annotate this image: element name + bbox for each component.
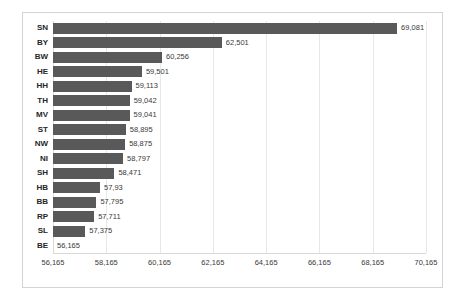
x-axis-tick-label: 64,165 [255,258,278,267]
bar-value-label: 56,165 [53,239,80,254]
x-axis-tick-label: 66,165 [308,258,331,267]
category-label: SN [37,21,48,36]
bar-row[interactable]: BB57,795 [53,195,426,210]
bar-value-label: 57,375 [85,224,112,239]
x-axis-tick-label: 68,165 [361,258,384,267]
category-label: HE [37,65,48,80]
bar[interactable] [53,226,85,237]
bar-value-label: 59,042 [130,94,157,109]
value-axis-line [53,253,426,254]
value-axis-tick-labels: 56,16558,16560,16562,16564,16566,16568,1… [53,258,426,274]
bar-row[interactable]: HE59,501 [53,65,426,80]
category-label: HB [36,181,48,196]
bar-row[interactable]: NI58,797 [53,152,426,167]
category-label: ST [38,123,48,138]
bar-value-label: 69,081 [397,21,424,36]
bar[interactable] [53,95,130,106]
bar-value-label: 57,93 [100,181,123,196]
bar-value-label: 57,711 [94,210,120,225]
bar-row[interactable]: SH58,471 [53,166,426,181]
bar-row[interactable]: TH59,042 [53,94,426,109]
bar[interactable] [53,182,100,193]
bar[interactable] [53,37,222,48]
bar-value-label: 58,875 [125,137,152,152]
bar[interactable] [53,211,94,222]
bar-value-label: 58,471 [114,166,141,181]
bar-value-label: 59,041 [130,108,157,123]
bar-value-label: 59,501 [142,65,169,80]
category-label: SL [38,224,48,239]
bar-row[interactable]: HB57,93 [53,181,426,196]
category-label: RP [37,210,48,225]
bar-value-label: 59,113 [132,79,158,94]
bar-value-label: 58,895 [126,123,153,138]
category-label: BY [37,36,48,51]
bar-row[interactable]: BE56,165 [53,239,426,254]
bar[interactable] [53,66,142,77]
category-label: BE [37,239,48,254]
category-label: SH [37,166,48,181]
bar[interactable] [53,52,162,63]
bar[interactable] [53,197,96,208]
gridline [426,21,427,253]
category-label: NI [40,152,48,167]
bar-value-label: 60,256 [162,50,189,65]
bar[interactable] [53,153,123,164]
bar-row[interactable]: HH59,113 [53,79,426,94]
category-label: BB [36,195,48,210]
bar-row[interactable]: SN69,081 [53,21,426,36]
bar[interactable] [53,81,132,92]
category-label: HH [36,79,48,94]
bar[interactable] [53,110,130,121]
plot-area: SN69,081BY62,501BW60,256HE59,501HH59,113… [53,21,426,253]
bar[interactable] [53,139,125,150]
bar-row[interactable]: RP57,711 [53,210,426,225]
bar-row[interactable]: MV59,041 [53,108,426,123]
bar[interactable] [53,23,397,34]
x-axis-tick-label: 70,165 [415,258,438,267]
category-label: BW [35,50,48,65]
x-axis-tick-label: 56,165 [42,258,65,267]
bar-row[interactable]: NW58,875 [53,137,426,152]
bar[interactable] [53,124,126,135]
bar-value-label: 62,501 [222,36,249,51]
bar-row[interactable]: ST58,895 [53,123,426,138]
bar-chart: SN69,081BY62,501BW60,256HE59,501HH59,113… [22,12,443,288]
x-axis-tick-label: 58,165 [95,258,118,267]
bar-row[interactable]: SL57,375 [53,224,426,239]
bar-value-label: 58,797 [123,152,150,167]
category-label: MV [36,108,48,123]
category-label: TH [37,94,48,109]
bar-row[interactable]: BW60,256 [53,50,426,65]
x-axis-tick-label: 62,165 [201,258,224,267]
x-axis-tick-label: 60,165 [148,258,171,267]
bar-row[interactable]: BY62,501 [53,36,426,51]
bar-value-label: 57,795 [96,195,123,210]
category-label: NW [35,137,48,152]
bar[interactable] [53,168,114,179]
